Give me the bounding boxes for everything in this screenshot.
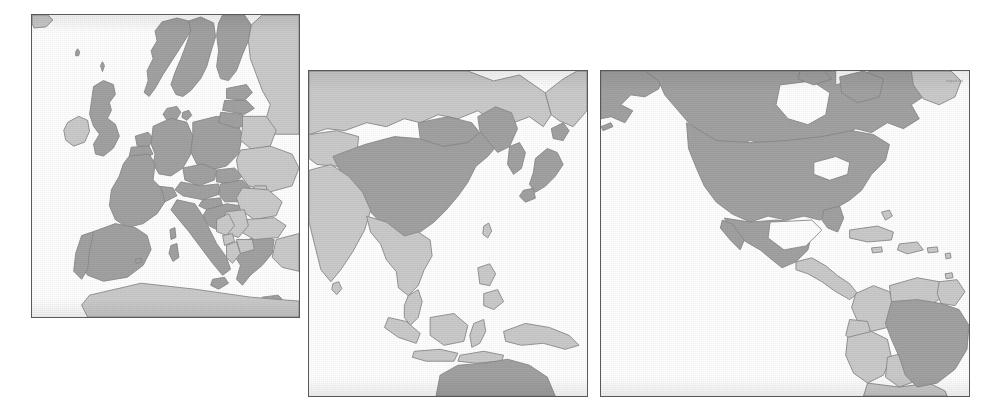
europe-map-svg [32, 15, 299, 317]
map-panel-asia-pacific[interactable] [308, 70, 588, 397]
figure-three-panel-maps: mapsof.net [0, 0, 998, 414]
country-jamaica [872, 247, 883, 253]
country-lesser-antilles [945, 253, 951, 259]
country-corsica [170, 228, 176, 240]
map-watermark: mapsof.net [946, 79, 963, 83]
americas-map-svg [601, 71, 969, 396]
asia-map-svg [309, 71, 587, 396]
country-trinidad [945, 273, 953, 279]
country-balearics [135, 258, 142, 263]
map-panel-americas[interactable]: mapsof.net [600, 70, 970, 397]
country-puerto-rico [927, 247, 938, 253]
map-panel-europe[interactable] [31, 14, 300, 318]
